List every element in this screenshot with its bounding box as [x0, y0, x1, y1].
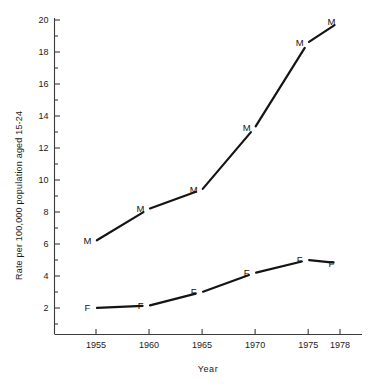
data-point-label-F: F	[244, 267, 250, 278]
data-point-label-M: M	[190, 184, 198, 195]
data-point-label-M: M	[296, 37, 304, 48]
data-point-label-M: M	[84, 235, 92, 246]
x-tick-label: 1960	[139, 340, 159, 350]
y-tick-label: 4	[43, 271, 48, 281]
y-tick-label: 16	[38, 79, 48, 89]
series-group	[97, 25, 335, 308]
x-tick-label: 1970	[245, 340, 265, 350]
x-tick-label: 1978	[330, 340, 350, 350]
y-tick-label: 20	[38, 15, 48, 25]
series-segment-F	[97, 306, 143, 308]
y-tick-label: 18	[38, 47, 48, 57]
x-tick-label: 1975	[298, 340, 318, 350]
data-point-label-F: F	[297, 254, 303, 265]
data-point-label-M: M	[137, 203, 145, 214]
y-tick-label: 2	[43, 303, 48, 313]
chart-container: 2468101214161820 19551960196519701975197…	[0, 0, 374, 387]
series-segment-M	[203, 132, 251, 189]
series-segment-M	[256, 48, 305, 126]
y-tick-label: 6	[43, 239, 48, 249]
data-point-label-F: F	[85, 302, 91, 313]
y-axis-title: Rate per 100,000 population aged 15-24	[14, 111, 24, 280]
data-point-label-F: F	[329, 258, 335, 269]
series-segment-M	[309, 25, 335, 42]
line-chart: 2468101214161820 19551960196519701975197…	[0, 0, 374, 387]
series-segment-F	[203, 275, 249, 292]
x-tick-label: 1955	[86, 340, 106, 350]
series-segment-F	[150, 294, 196, 306]
data-point-label-F: F	[191, 286, 197, 297]
x-axis-ticks: 195519601965197019751978	[86, 329, 350, 350]
x-axis-title: Year	[198, 364, 219, 374]
y-tick-label: 8	[43, 207, 48, 217]
axes-group	[55, 18, 363, 335]
series-segment-M	[97, 212, 144, 240]
y-axis-ticks: 2468101214161820	[38, 15, 60, 324]
data-point-label-F: F	[138, 300, 144, 311]
y-tick-label: 14	[38, 111, 48, 121]
data-point-label-M: M	[243, 122, 251, 133]
series-segment-F	[256, 262, 302, 273]
data-point-label-M: M	[328, 16, 336, 27]
y-tick-label: 10	[38, 175, 48, 185]
y-tick-label: 12	[38, 143, 48, 153]
x-tick-label: 1965	[192, 340, 212, 350]
